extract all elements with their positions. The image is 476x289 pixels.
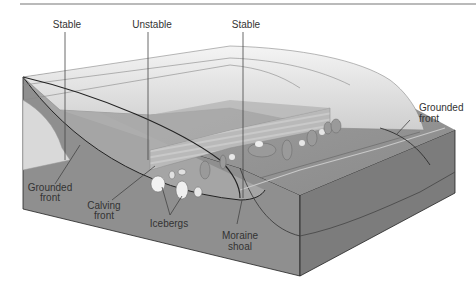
label-grounded-front-left-line2: front [40, 192, 60, 203]
label-grounded-front-right-line2: front [419, 113, 439, 124]
label-grounded-front-right-line1: Grounded [419, 102, 463, 113]
label-moraine-shoal-line2: shoal [228, 241, 252, 252]
label-stable-left: Stable [53, 19, 82, 30]
label-stable-right: Stable [232, 19, 261, 30]
label-icebergs: Icebergs [150, 218, 188, 229]
glacier-block-diagram: Stable Unstable Stable Grounded front Gr… [0, 0, 476, 289]
label-calving-front-line2: front [94, 210, 114, 221]
label-unstable: Unstable [132, 19, 172, 30]
label-moraine-shoal-line1: Moraine [222, 230, 259, 241]
